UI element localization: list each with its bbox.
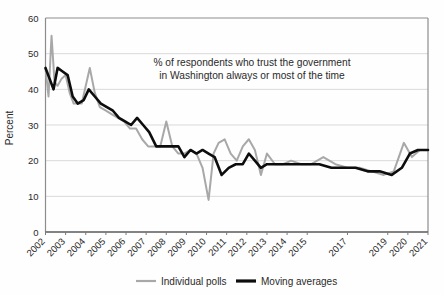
chart-legend: Individual polls Moving averages	[136, 276, 337, 287]
legend-label-moving-averages: Moving averages	[261, 276, 337, 287]
x-tick-label: 2017	[326, 236, 349, 259]
x-tick-label: 2015	[286, 236, 309, 259]
x-axis-tick-labels: 2002200320042005200620072008200920102011…	[24, 232, 429, 258]
x-tick-label: 2011	[206, 236, 228, 258]
y-axis-tick-labels: 0102030405060	[28, 13, 39, 238]
x-tick-label: 2019	[366, 236, 389, 259]
x-tick-label: 2006	[105, 236, 128, 259]
annotation-line-1: % of respondents who trust the governmen…	[153, 57, 350, 68]
x-tick-label: 2009	[165, 236, 188, 259]
y-tick-label: 10	[28, 191, 39, 202]
y-tick-label: 60	[28, 13, 39, 24]
y-tick-label: 20	[28, 155, 39, 166]
chart-container: 0102030405060 Percent 200220032004200520…	[0, 0, 444, 295]
x-tick-label: 2005	[85, 236, 108, 259]
chart-annotation: % of respondents who trust the governmen…	[153, 57, 350, 81]
x-tick-label: 2008	[145, 236, 168, 259]
legend-label-individual-polls: Individual polls	[161, 276, 227, 287]
x-tick-label: 2013	[246, 236, 269, 259]
x-tick-label: 2020	[387, 236, 410, 259]
x-tick-label: 2012	[226, 236, 249, 259]
x-tick-label: 2004	[64, 236, 87, 259]
x-tick-label: 2010	[185, 236, 208, 259]
y-tick-label: 30	[28, 120, 39, 131]
x-tick-label: 2007	[125, 236, 148, 259]
x-tick-label: 2021	[407, 236, 430, 259]
y-tick-label: 50	[28, 48, 39, 59]
y-tick-label: 40	[28, 84, 39, 95]
y-axis-title: Percent	[4, 111, 15, 146]
x-tick-label: 2003	[44, 236, 67, 259]
trust-in-government-line-chart: 0102030405060 Percent 200220032004200520…	[0, 0, 444, 295]
x-tick-label: 2002	[24, 236, 47, 259]
annotation-line-2: in Washington always or most of the time	[159, 70, 345, 81]
x-tick-label: 2014	[266, 236, 289, 259]
